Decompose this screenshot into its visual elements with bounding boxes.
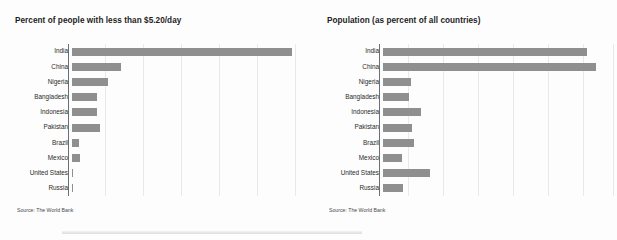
bar-nigeria: [383, 78, 411, 86]
category-label: China: [324, 64, 383, 70]
bar-brazil: [72, 139, 79, 147]
category-label: Russia: [324, 185, 383, 191]
category-label: Brazil: [324, 140, 383, 146]
chart-row: Pakistan: [324, 120, 605, 135]
category-label: India: [324, 48, 383, 54]
category-label: United States: [324, 170, 383, 176]
bar-mexico: [383, 154, 402, 162]
page-bottom-edge: [62, 231, 362, 234]
bar-track: [72, 74, 296, 89]
bar-track: [72, 59, 296, 74]
chart-row: United States: [324, 166, 605, 181]
bar-united-states: [72, 169, 73, 177]
chart-row: Bangladesh: [14, 90, 296, 105]
bar-rows-poverty: India China Nigeria: [14, 44, 296, 196]
bar-brazil: [383, 139, 414, 147]
bar-mexico: [72, 154, 80, 162]
chart-title-poverty: Percent of people with less than $5.20/d…: [15, 16, 181, 25]
category-label: Nigeria: [14, 79, 72, 85]
bar-track: [383, 44, 605, 59]
bar-bangladesh: [383, 93, 409, 101]
chart-row: Nigeria: [14, 74, 296, 89]
bar-track: [383, 120, 605, 135]
chart-row: Indonesia: [14, 105, 296, 120]
bar-track: [383, 105, 605, 120]
plot-area-poverty: India China Nigeria: [14, 44, 296, 196]
category-label: Mexico: [14, 155, 72, 161]
chart-row: Brazil: [324, 135, 605, 150]
bar-track: [383, 150, 605, 165]
chart-row: Russia: [14, 181, 296, 196]
chart-row: Mexico: [324, 150, 605, 165]
bar-track: [383, 59, 605, 74]
bar-bangladesh: [72, 93, 97, 101]
category-label: Mexico: [324, 155, 383, 161]
category-label: Indonesia: [324, 109, 383, 115]
slide-canvas: Percent of people with less than $5.20/d…: [0, 0, 617, 240]
bar-pakistan: [383, 124, 412, 132]
bar-track: [383, 135, 605, 150]
bar-nigeria: [72, 78, 108, 86]
category-label: China: [14, 64, 72, 70]
bar-china: [383, 63, 596, 71]
bar-track: [72, 90, 296, 105]
bar-indonesia: [383, 108, 421, 116]
chart-row: India: [324, 44, 605, 59]
chart-row: Pakistan: [14, 120, 296, 135]
bar-track: [72, 105, 296, 120]
chart-row: India: [14, 44, 296, 59]
bar-track: [383, 166, 605, 181]
chart-row: Russia: [324, 181, 605, 196]
bar-indonesia: [72, 108, 97, 116]
bar-track: [383, 181, 605, 196]
bar-india: [72, 48, 292, 56]
gridline: [613, 44, 614, 196]
bar-pakistan: [72, 124, 100, 132]
bar-china: [72, 63, 121, 71]
chart-row: China: [14, 59, 296, 74]
bar-track: [72, 44, 296, 59]
bar-rows-population: India China Nigeria: [324, 44, 605, 196]
chart-panel-poverty: Percent of people with less than $5.20/d…: [0, 0, 308, 240]
category-label: United States: [14, 170, 72, 176]
chart-panel-population: Population (as percent of all countries)…: [308, 0, 617, 240]
bar-india: [383, 48, 587, 56]
category-label: Brazil: [14, 140, 72, 146]
chart-row: Indonesia: [324, 105, 605, 120]
plot-area-population: India China Nigeria: [324, 44, 605, 196]
chart-row: Brazil: [14, 135, 296, 150]
chart-row: China: [324, 59, 605, 74]
chart-row: Bangladesh: [324, 90, 605, 105]
bar-track: [72, 135, 296, 150]
bar-track: [72, 181, 296, 196]
category-label: Nigeria: [324, 79, 383, 85]
bar-track: [72, 120, 296, 135]
category-label: Russia: [14, 185, 72, 191]
chart-row: United States: [14, 166, 296, 181]
category-label: Indonesia: [14, 109, 72, 115]
source-note-poverty: Source: The World Bank: [17, 207, 73, 213]
category-label: Pakistan: [14, 124, 72, 130]
chart-row: Nigeria: [324, 74, 605, 89]
chart-title-population: Population (as percent of all countries): [327, 16, 481, 25]
bar-russia: [383, 184, 403, 192]
chart-row: Mexico: [14, 150, 296, 165]
bar-track: [383, 74, 605, 89]
category-label: Bangladesh: [324, 94, 383, 100]
bar-united-states: [383, 169, 430, 177]
bar-track: [383, 90, 605, 105]
category-label: India: [14, 48, 72, 54]
category-label: Pakistan: [324, 124, 383, 130]
bar-track: [72, 166, 296, 181]
bar-track: [72, 150, 296, 165]
source-note-population: Source: The World Bank: [329, 207, 385, 213]
category-label: Bangladesh: [14, 94, 72, 100]
